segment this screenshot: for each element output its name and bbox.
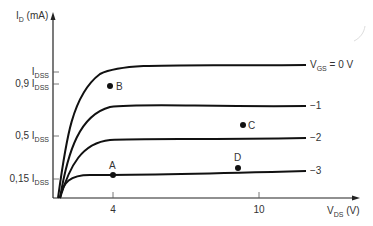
y-tick-0-5-idss: 0,5 IDSS [15, 130, 49, 143]
curve-vgs-minus-1 [60, 105, 306, 198]
point-b-label: B [116, 81, 123, 92]
curve-vgs-minus-2 [60, 138, 306, 198]
point-d [235, 165, 241, 171]
y-axis-arrow-icon [51, 12, 56, 20]
point-c [240, 122, 246, 128]
y-tick-0-15-idss: 0,15 IDSS [10, 173, 50, 186]
curve-vgs-minus-3 [60, 171, 306, 198]
curve-label-minus-3: −3 [310, 165, 322, 176]
point-b [107, 83, 113, 89]
point-c-label: C [248, 120, 255, 131]
x-tick-4: 4 [110, 204, 116, 215]
point-a [110, 172, 116, 178]
curve-label-minus-2: −2 [310, 132, 322, 143]
curve-vgs-0 [58, 65, 306, 198]
y-axis-title: ID (mA) [16, 10, 48, 23]
point-d-label: D [234, 152, 241, 163]
x-axis-title: VDS (V) [327, 205, 360, 218]
page-artifact [354, 26, 365, 41]
x-axis-arrow-icon [352, 196, 360, 201]
curve-label-vgs-0: VGS = 0 V [310, 59, 354, 72]
jfet-output-characteristics-chart: B C D A ID (mA) VDS (V) IDSS 0,9 IDSS 0,… [0, 0, 373, 226]
point-a-label: A [109, 160, 116, 171]
x-tick-10: 10 [253, 204, 265, 215]
y-tick-0-9-idss: 0,9 IDSS [15, 78, 49, 91]
curve-label-minus-1: −1 [310, 100, 322, 111]
